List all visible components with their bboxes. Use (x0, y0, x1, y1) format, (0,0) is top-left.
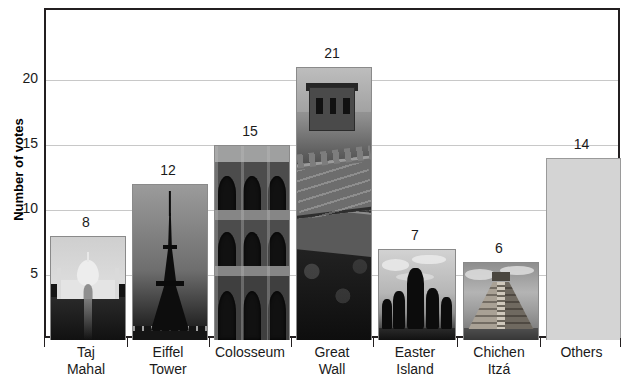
y-axis-tick-label: 20 (0, 70, 44, 86)
y-axis-tick-labels: 5101520 (0, 0, 44, 338)
x-axis-category-label: Others (534, 344, 629, 361)
bar-value-label: 15 (212, 123, 288, 139)
monument-illustration (464, 263, 538, 340)
category-label-line: Tower (120, 361, 216, 378)
x-axis-category-label: ChichenItzá (451, 344, 547, 378)
category-label-line: Chichen (451, 344, 547, 361)
bar[interactable] (132, 184, 208, 340)
monument-illustration (51, 237, 125, 340)
votes-bar-chart: Number of votes 5101520 8TajMahal12Eiffe… (0, 0, 632, 384)
x-axis-tick (291, 338, 292, 347)
y-axis-tick-label: 5 (0, 265, 44, 281)
monument-illustration (297, 68, 371, 340)
bar[interactable] (463, 262, 539, 340)
x-axis-tick (373, 338, 374, 347)
bar-value-label: 12 (130, 162, 206, 178)
x-axis-tick (457, 338, 458, 347)
bar-value-label: 6 (461, 240, 537, 256)
monument-illustration (133, 185, 207, 340)
bar[interactable] (378, 249, 456, 340)
bar-value-label: 7 (376, 227, 454, 243)
x-axis-tick (540, 338, 541, 347)
bar-image-photo-chichen-itza (464, 263, 538, 340)
bar-image-photo-colosseum (215, 146, 289, 340)
bar-value-label: 14 (544, 136, 619, 152)
bar-image-photo-easter-island (379, 250, 455, 340)
bar-value-label: 8 (48, 214, 124, 230)
y-axis-tick-label: 10 (0, 200, 44, 216)
bar[interactable] (296, 67, 372, 340)
monument-illustration (215, 146, 289, 340)
monument-illustration (379, 250, 455, 340)
bar[interactable] (50, 236, 126, 340)
y-axis-tick-label: 15 (0, 135, 44, 151)
x-axis-tick (44, 338, 45, 347)
category-label-line: Island (366, 361, 464, 378)
bar-image-photo-eiffel-tower (133, 185, 207, 340)
bar-value-label: 21 (294, 45, 370, 61)
bar-image-photo-great-wall (297, 68, 371, 340)
category-label-line: Others (534, 344, 629, 361)
bar[interactable] (214, 145, 290, 340)
x-axis-tick (127, 338, 128, 347)
bar[interactable] (546, 158, 621, 340)
category-label-line: Itzá (451, 361, 547, 378)
x-axis-tick (620, 338, 621, 347)
x-axis-category-label: EasterIsland (366, 344, 464, 378)
bar-image-photo-taj-mahal (51, 237, 125, 340)
category-label-line: Easter (366, 344, 464, 361)
x-axis-tick (209, 338, 210, 347)
